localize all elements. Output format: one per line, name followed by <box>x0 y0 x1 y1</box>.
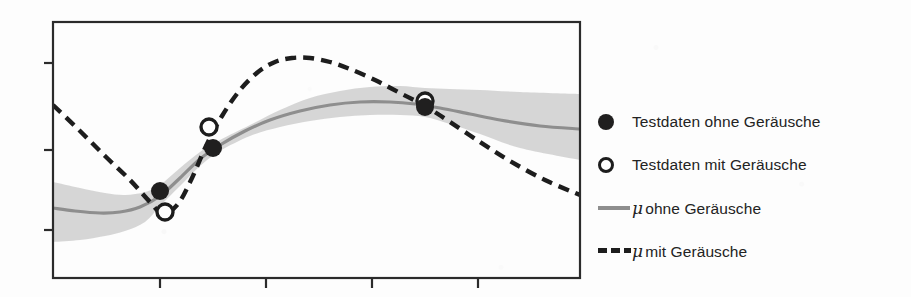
data-point-with-noise <box>157 204 173 220</box>
axis-frame <box>53 22 580 278</box>
data-point-without-noise <box>416 98 434 116</box>
open-circle-icon <box>598 157 632 173</box>
filled-circle-icon <box>598 114 632 130</box>
figure-canvas: Testdaten ohne Geräusche Testdaten mit G… <box>0 0 911 297</box>
legend: Testdaten ohne Geräusche Testdaten mit G… <box>598 100 903 272</box>
dashed-line-icon <box>598 248 632 253</box>
legend-label-mu-mit-geraeusche: μmit Geräusche <box>632 241 747 261</box>
data-point-without-noise <box>151 182 169 200</box>
legend-label-text-mu-mit: mit Geräusche <box>645 243 747 260</box>
mu-symbol-dashed: μ <box>632 241 645 261</box>
legend-label-text-mu-ohne: ohne Geräusche <box>645 200 761 217</box>
legend-item-mu-ohne-geraeusche[interactable]: μohne Geräusche <box>598 186 903 229</box>
data-point-with-noise <box>201 119 217 135</box>
legend-label-testdaten-ohne-geraeusche: Testdaten ohne Geräusche <box>632 113 821 131</box>
confidence-band <box>53 86 580 242</box>
legend-label-testdaten-mit-geraeusche: Testdaten mit Geräusche <box>632 156 807 174</box>
legend-item-testdaten-ohne-geraeusche[interactable]: Testdaten ohne Geräusche <box>598 100 903 143</box>
legend-item-mu-mit-geraeusche[interactable]: μmit Geräusche <box>598 229 903 272</box>
solid-line-icon <box>598 206 632 210</box>
legend-item-testdaten-mit-geraeusche[interactable]: Testdaten mit Geräusche <box>598 143 903 186</box>
data-point-without-noise <box>204 139 222 157</box>
legend-label-mu-ohne-geraeusche: μohne Geräusche <box>632 198 761 218</box>
mu-symbol-solid: μ <box>632 198 645 218</box>
